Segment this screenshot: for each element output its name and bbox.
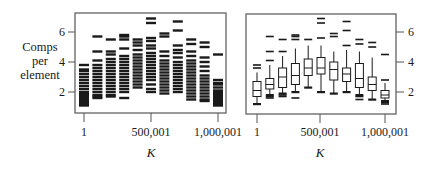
strip-mark: [133, 41, 143, 43]
strip-mark: [159, 83, 169, 85]
box: [355, 64, 363, 88]
strip-mark: [119, 79, 129, 81]
strip-mark: [186, 83, 196, 85]
strip-mark: [159, 59, 169, 61]
strip-mark: [200, 46, 210, 48]
strip-mark: [146, 22, 156, 24]
outlier-mark: [279, 96, 287, 98]
strip-mark: [119, 67, 129, 69]
strip-mark: [106, 91, 116, 93]
strip-mark: [106, 38, 116, 40]
strip-mark: [92, 50, 102, 52]
strip-mark: [159, 62, 169, 64]
strip-mark: [119, 61, 129, 63]
strip-mark: [159, 77, 169, 79]
strip-mark: [119, 73, 129, 75]
strip-mark: [146, 83, 156, 85]
strip-mark: [200, 86, 210, 88]
strip-mark: [133, 74, 143, 76]
strip-mark: [200, 98, 210, 100]
strip-mark: [133, 83, 143, 85]
chart-canvas: [0, 0, 431, 170]
outlier-mark: [291, 97, 299, 99]
strip-mark: [200, 61, 210, 63]
strip-mark: [173, 79, 183, 81]
strip-mark: [133, 71, 143, 73]
strip-mark: [119, 97, 129, 99]
outlier-mark: [291, 36, 299, 38]
strip-mark: [173, 73, 183, 75]
strip-mark: [173, 70, 183, 72]
strip-mark: [119, 55, 129, 57]
outlier-mark: [381, 103, 389, 105]
strip-mark: [159, 35, 169, 37]
whisker-cap: [368, 99, 376, 101]
strip-mark: [133, 62, 143, 64]
outlier-mark: [266, 51, 274, 53]
strip-mark: [106, 82, 116, 84]
strip-mark: [79, 64, 89, 66]
outlier-mark: [343, 21, 351, 23]
strip-mark: [106, 85, 116, 87]
strip-mark: [92, 82, 102, 84]
strip-mark: [146, 73, 156, 75]
strip-mark: [186, 80, 196, 82]
outlier-mark: [368, 42, 376, 44]
strip-mark: [159, 80, 169, 82]
strip-mark: [146, 44, 156, 46]
box: [343, 68, 351, 82]
strip-mark: [146, 55, 156, 57]
strip-mark: [173, 52, 183, 54]
strip-mark: [173, 82, 183, 84]
box: [368, 77, 376, 91]
strip-mark: [146, 40, 156, 42]
strip-mark: [200, 41, 210, 43]
whisker-cap: [291, 91, 299, 93]
strip-mark: [186, 77, 196, 79]
strip-mark: [200, 74, 210, 76]
strip-mark: [159, 32, 169, 34]
strip-mark: [213, 89, 223, 91]
outlier-mark: [266, 97, 274, 99]
strip-mark: [92, 67, 102, 69]
outlier-mark: [355, 99, 363, 101]
strip-mark: [106, 70, 116, 72]
outlier-mark: [381, 102, 389, 104]
box: [279, 68, 287, 88]
strip-mark: [119, 88, 129, 90]
whisker-cap: [343, 91, 351, 93]
strip-mark: [133, 80, 143, 82]
strip-mark: [119, 70, 129, 72]
strip-mark: [159, 65, 169, 67]
strip-mark: [119, 91, 129, 93]
box: [291, 64, 299, 85]
strip-mark: [186, 89, 196, 91]
outlier-mark: [253, 103, 261, 105]
strip-mark: [79, 79, 89, 81]
strip-mark: [186, 86, 196, 88]
strip-mark: [92, 59, 102, 61]
outlier-mark: [317, 22, 325, 24]
strip-mark: [146, 58, 156, 60]
strip-mark: [133, 77, 143, 79]
strip-mark: [186, 95, 196, 97]
box: [304, 59, 312, 76]
whisker-cap: [304, 87, 312, 89]
strip-mark: [119, 58, 129, 60]
strip-mark: [213, 86, 223, 88]
strip-mark: [173, 44, 183, 46]
strip-mark: [200, 80, 210, 82]
strip-mark: [146, 88, 156, 90]
strip-mark: [159, 86, 169, 88]
strip-mark: [133, 86, 143, 88]
whisker-cap: [330, 93, 338, 95]
strip-mark: [92, 79, 102, 81]
strip-mark: [200, 95, 210, 97]
strip-mark: [186, 92, 196, 94]
strip-mark: [146, 70, 156, 72]
outlier-mark: [355, 96, 363, 98]
strip-mark: [106, 67, 116, 69]
outlier-mark: [343, 30, 351, 32]
strip-mark: [146, 37, 156, 39]
box-plot-panel: [246, 14, 404, 123]
